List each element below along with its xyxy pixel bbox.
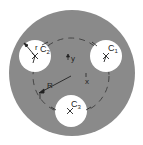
label-r: r bbox=[35, 43, 38, 52]
label-x: x bbox=[85, 77, 89, 86]
diagram-canvas: r C2 C1 C3 y x R bbox=[0, 0, 143, 145]
label-y: y bbox=[71, 54, 75, 63]
disk-with-holes-diagram: r C2 C1 C3 y x R bbox=[0, 0, 143, 145]
label-R: R bbox=[47, 81, 53, 90]
